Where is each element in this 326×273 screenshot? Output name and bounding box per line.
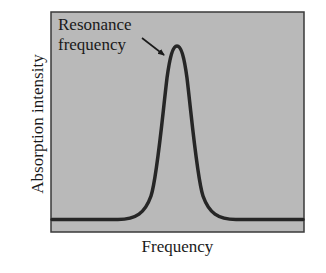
annotation-line-2: frequency bbox=[58, 35, 126, 54]
x-axis-label: Frequency bbox=[142, 237, 214, 256]
annotation-line-1: Resonance bbox=[58, 15, 132, 34]
y-axis-label: Absorption intensity bbox=[28, 54, 47, 194]
resonance-chart: Resonance frequency Frequency Absorption… bbox=[0, 0, 326, 273]
